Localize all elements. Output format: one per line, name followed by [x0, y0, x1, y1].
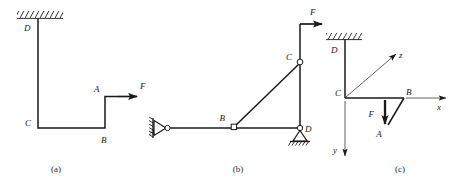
fixed-support-icon-a: [17, 11, 63, 18]
label-c-C: C: [335, 88, 342, 98]
axis-label-z: z: [398, 50, 403, 60]
axis-z-c: [346, 54, 396, 97]
label-a-F: F: [139, 81, 146, 91]
panel-c: D C B A F z x y (c): [326, 33, 446, 174]
frame-member-a: [38, 18, 117, 128]
label-a-C: C: [25, 118, 32, 128]
label-c-A: A: [375, 129, 382, 139]
fixed-support-icon-c: [326, 33, 362, 40]
figure-root: D C B A F (a): [0, 0, 461, 186]
panel-a: D C B A F (a): [17, 11, 146, 174]
label-c-B: B: [406, 87, 412, 97]
label-c-D: D: [330, 45, 338, 55]
axis-label-y: y: [332, 145, 337, 155]
label-b-F: F: [309, 7, 316, 17]
caption-c: (c): [395, 164, 405, 174]
label-b-A: A: [149, 127, 156, 137]
diagonal-member-BC-b: [234, 64, 299, 127]
caption-a: (a): [51, 164, 61, 174]
label-a-D: D: [23, 23, 31, 33]
statics-figure: D C B A F (a): [0, 0, 461, 186]
member-BA-c: [388, 98, 404, 125]
label-b-B: B: [220, 113, 226, 123]
axis-label-x: x: [436, 102, 441, 112]
label-b-C: C: [286, 52, 293, 62]
label-a-A: A: [93, 84, 100, 94]
panel-b: A B C D F (b): [149, 7, 323, 174]
label-c-F: F: [368, 109, 375, 119]
joint-C-b: [297, 59, 303, 65]
label-a-B: B: [101, 135, 107, 145]
label-b-D: D: [304, 124, 312, 134]
joint-B-b: [231, 124, 236, 129]
caption-b: (b): [233, 164, 244, 174]
